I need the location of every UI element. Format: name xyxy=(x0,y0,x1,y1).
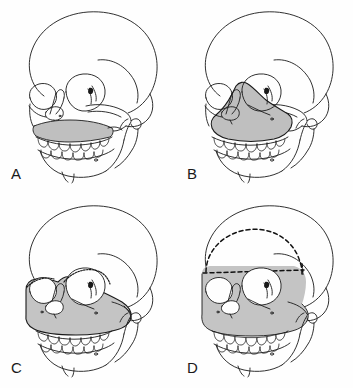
chin-symphysis xyxy=(62,366,74,377)
zygomatic-arch xyxy=(86,105,131,121)
condyle xyxy=(307,119,317,129)
nasal-bridge xyxy=(56,90,64,98)
mandible-ramus-anterior xyxy=(282,334,300,365)
optic-foramen xyxy=(88,88,93,95)
mental-foramen xyxy=(94,159,97,161)
condyle xyxy=(307,313,317,323)
lower-teeth xyxy=(41,344,103,354)
optic-foramen xyxy=(264,88,269,95)
le-fort-one-shaded-segment xyxy=(33,120,113,142)
lower-teeth xyxy=(217,150,279,160)
temporal-line xyxy=(98,60,138,103)
panel-le-fort-two xyxy=(176,0,352,194)
mandible-ramus-anterior xyxy=(106,140,124,171)
mandible-ramus-anterior xyxy=(282,140,300,171)
panel-monobloc-frontofacial xyxy=(176,194,352,388)
skull-drawing-d xyxy=(176,194,352,388)
lower-teeth xyxy=(217,344,279,354)
panel-label-a: A xyxy=(11,166,21,181)
panel-le-fort-one xyxy=(0,0,176,194)
chin-symphysis xyxy=(238,366,250,377)
orbit-near xyxy=(242,268,281,305)
skull-drawing-c xyxy=(0,194,176,388)
mental-foramen xyxy=(270,159,273,161)
le-fort-two-shaded-segment xyxy=(211,82,292,141)
mandible-ramus-anterior xyxy=(106,334,124,365)
panel-le-fort-three xyxy=(0,194,176,388)
nasal-lateral xyxy=(50,93,56,114)
occiput-outline xyxy=(126,94,153,127)
ramus-outline xyxy=(291,129,314,168)
zygomatic-arch-lower xyxy=(88,111,121,117)
skull-drawing-b xyxy=(176,0,352,194)
foramen-mark-1 xyxy=(59,115,61,117)
panel-label-b: B xyxy=(187,166,197,181)
ramus-outline xyxy=(115,129,138,168)
temporal-line xyxy=(274,60,314,103)
panel-label-d: D xyxy=(187,360,198,375)
ramus-posterior xyxy=(300,122,307,140)
maxilla-lateral-far xyxy=(30,104,33,126)
mental-foramen xyxy=(94,353,97,355)
occiput-outline xyxy=(302,94,329,127)
skull-drawing-a xyxy=(0,0,176,194)
condyle xyxy=(131,313,141,323)
panel-label-c: C xyxy=(11,360,22,375)
mental-foramen xyxy=(270,353,273,355)
orbit-near xyxy=(66,74,105,111)
ramus-posterior xyxy=(124,122,131,140)
chin-symphysis xyxy=(238,172,250,183)
orbit-near xyxy=(66,268,105,305)
condyle xyxy=(131,119,141,129)
maxilla-lateral-far xyxy=(206,104,209,126)
lower-teeth xyxy=(41,150,103,160)
chin-symphysis xyxy=(62,172,74,183)
le-fort-osteotomy-figure: A xyxy=(0,0,353,388)
